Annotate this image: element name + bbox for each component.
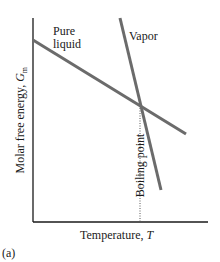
boiling-point-label: Boiling point [133,121,148,211]
x-axis-label-text: Temperature, [80,228,146,242]
x-axis-label-var: T [146,228,153,242]
y-axis-label-sub: m [20,67,29,73]
panel-label: (a) [2,247,15,260]
pure-liquid-line [33,40,186,134]
pure-liquid-label: Pure liquid [53,25,81,51]
x-axis-label: Temperature, T [80,229,153,242]
chart-canvas [0,0,220,262]
y-axis-label-text: Molar free energy, [13,82,27,174]
vapor-label: Vapor [129,30,158,43]
pure-label-line2: liquid [53,38,81,51]
y-axis-label-var: G [13,73,27,82]
y-axis-label: Molar free energy, Gm [13,55,29,185]
